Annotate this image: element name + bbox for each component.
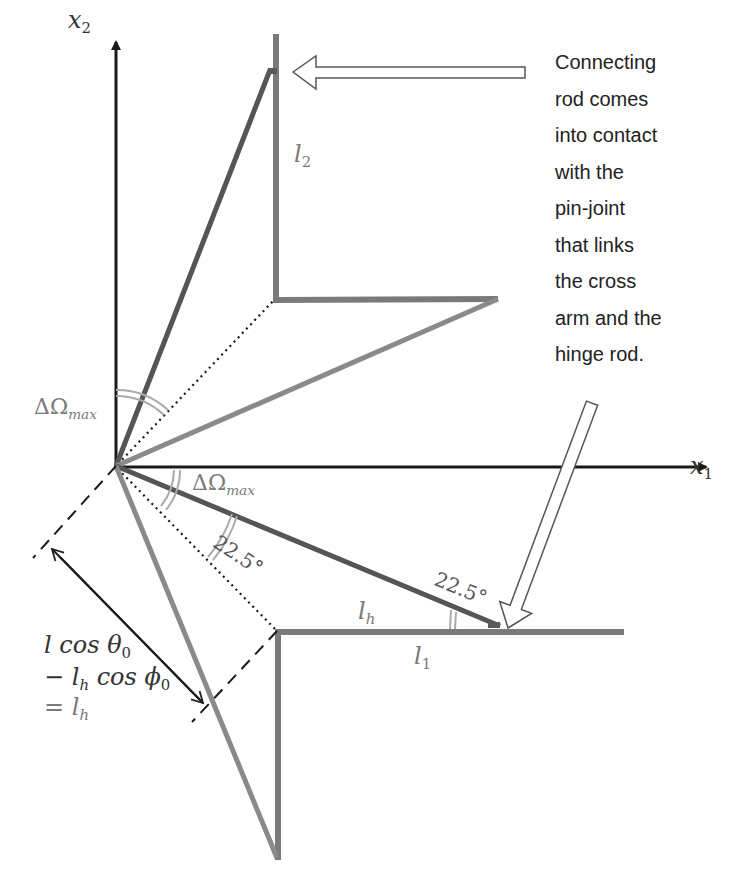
lh-name: l bbox=[358, 597, 366, 625]
delta-omega-upper-text: ΔΩ bbox=[34, 394, 68, 419]
formula-line3-prefix: = l bbox=[44, 693, 79, 721]
formula-line-2: − lh cos ϕ0 bbox=[44, 663, 170, 694]
callout-arrow-bottom bbox=[492, 397, 608, 634]
l2-name: l bbox=[294, 140, 302, 168]
x1-sub: 1 bbox=[704, 465, 713, 483]
formula-line1-text: l cos θ bbox=[44, 631, 122, 659]
caption-text: Connecting rod comes into contact with t… bbox=[555, 44, 735, 373]
angle-tick-right-b bbox=[455, 612, 456, 629]
formula-line2-mid: cos ϕ bbox=[89, 663, 161, 691]
l1-name: l bbox=[414, 642, 422, 670]
callout-arrow-top bbox=[293, 56, 525, 89]
x2-name: x bbox=[68, 6, 82, 34]
formula-line2-prefix: − l bbox=[44, 663, 79, 691]
delta-omega-lower-text: ΔΩ bbox=[192, 470, 226, 495]
caption-line: arm and the bbox=[555, 300, 735, 337]
caption-line: Connecting bbox=[555, 44, 735, 81]
dimension-dashed-left bbox=[33, 466, 116, 558]
lower-frame-rod bbox=[278, 632, 624, 860]
l2-sub: 2 bbox=[302, 153, 311, 171]
caption-line: the cross bbox=[555, 263, 735, 300]
angle-tick-right-a bbox=[450, 610, 451, 629]
dotted-line-upper bbox=[118, 300, 274, 464]
formula-line2-sub1: h bbox=[79, 676, 89, 694]
x1-name: x bbox=[690, 452, 704, 480]
caption-line: with the bbox=[555, 154, 735, 191]
x2-sub: 2 bbox=[82, 19, 91, 37]
caption-line: that links bbox=[555, 227, 735, 264]
l1-sub: 1 bbox=[422, 655, 431, 673]
caption-line: rod comes bbox=[555, 81, 735, 118]
x1-axis-label: x1 bbox=[690, 452, 713, 483]
formula-line-3: = lh bbox=[44, 693, 89, 724]
caption-line: hinge rod. bbox=[555, 336, 735, 373]
delta-omega-max-lower: ΔΩmax bbox=[192, 470, 255, 498]
lower-rod-tip-cap bbox=[488, 622, 500, 628]
formula-line1-sub: 0 bbox=[122, 644, 131, 662]
upper-rod-tip-cap bbox=[268, 68, 277, 74]
caption-line: pin-joint bbox=[555, 190, 735, 227]
delta-omega-lower-sub: max bbox=[226, 482, 255, 498]
l2-label: l2 bbox=[294, 140, 311, 171]
l1-label: l1 bbox=[414, 642, 431, 673]
delta-omega-max-upper: ΔΩmax bbox=[34, 394, 97, 422]
lh-label: lh bbox=[358, 597, 375, 628]
formula-line3-sub: h bbox=[79, 706, 89, 724]
x2-axis-label: x2 bbox=[68, 6, 91, 37]
lh-sub: h bbox=[366, 610, 376, 628]
caption-line: into contact bbox=[555, 117, 735, 154]
delta-omega-upper-sub: max bbox=[68, 406, 97, 422]
formula-line2-sub2: 0 bbox=[161, 676, 170, 694]
formula-line-1: l cos θ0 bbox=[44, 631, 131, 662]
